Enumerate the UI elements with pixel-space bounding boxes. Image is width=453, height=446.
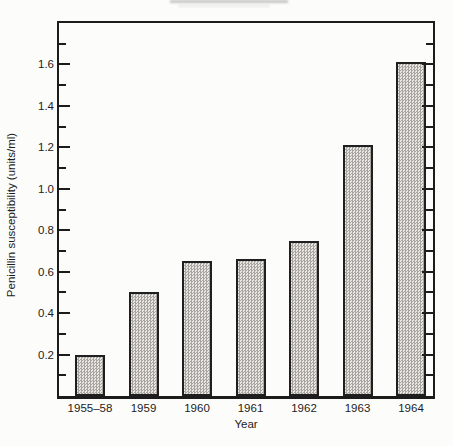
major-tick-right: [422, 229, 433, 231]
minor-tick-left: [59, 291, 66, 293]
y-tick-label-0.2: 0.2: [16, 349, 54, 362]
cropped-page-text-artifact: [170, 0, 288, 3]
minor-tick-left: [59, 333, 66, 335]
major-tick-right: [422, 146, 433, 148]
major-tick-right: [422, 271, 433, 273]
bar-1960: [182, 261, 212, 396]
minor-tick-right: [426, 250, 433, 252]
major-tick-right: [422, 63, 433, 65]
minor-tick-right: [426, 167, 433, 169]
bar-1959: [129, 292, 159, 396]
minor-tick-left: [59, 43, 66, 45]
y-tick-label-0.8: 0.8: [16, 224, 54, 237]
bar-1961: [236, 259, 266, 396]
minor-tick-left: [59, 374, 66, 376]
minor-tick-left: [59, 250, 66, 252]
major-tick-left: [59, 312, 70, 314]
major-tick-left: [59, 354, 70, 356]
minor-tick-left: [59, 167, 66, 169]
major-tick-left: [59, 188, 70, 190]
bar-1962: [289, 241, 319, 396]
major-tick-left: [59, 63, 70, 65]
x-tick-label-1964: 1964: [371, 402, 451, 415]
penicillin-susceptibility-bar-chart: 0.20.40.60.81.01.21.41.6 1955–5819591960…: [0, 0, 453, 446]
y-axis-title: Penicillin susceptibility (units/ml): [5, 105, 17, 325]
minor-tick-right: [426, 209, 433, 211]
major-tick-right: [422, 188, 433, 190]
minor-tick-left: [59, 84, 66, 86]
major-tick-right: [422, 312, 433, 314]
y-tick-label-0.4: 0.4: [16, 307, 54, 320]
minor-tick-right: [426, 43, 433, 45]
minor-tick-right: [426, 333, 433, 335]
major-tick-left: [59, 229, 70, 231]
y-tick-label-1.2: 1.2: [16, 141, 54, 154]
minor-tick-left: [59, 126, 66, 128]
minor-tick-left: [59, 209, 66, 211]
y-tick-label-0.6: 0.6: [16, 266, 54, 279]
y-tick-label-1.6: 1.6: [16, 58, 54, 71]
y-tick-label-1.4: 1.4: [16, 100, 54, 113]
major-tick-left: [59, 146, 70, 148]
minor-tick-right: [426, 126, 433, 128]
plot-area: [57, 21, 435, 399]
major-tick-left: [59, 105, 70, 107]
x-axis-title: Year: [57, 418, 435, 430]
minor-tick-right: [426, 84, 433, 86]
major-tick-right: [422, 105, 433, 107]
bar-1963: [343, 145, 373, 396]
minor-tick-right: [426, 374, 433, 376]
major-tick-right: [422, 354, 433, 356]
cropped-page-text-artifact-2: [178, 5, 270, 7]
minor-tick-right: [426, 291, 433, 293]
plot-inner: [59, 23, 433, 396]
major-tick-left: [59, 271, 70, 273]
y-tick-label-1.0: 1.0: [16, 183, 54, 196]
bar-1955–58: [75, 355, 105, 396]
